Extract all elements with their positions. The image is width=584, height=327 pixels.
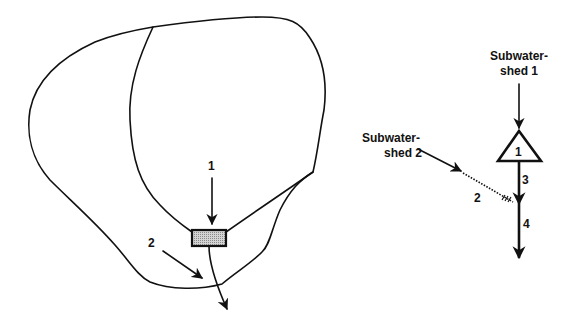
- watershed-map: 1 2: [29, 17, 325, 309]
- reservoir: [192, 230, 226, 246]
- subwatershed-1-label-line2: shed 1: [500, 64, 538, 78]
- watershed-boundary: [29, 17, 325, 288]
- outflow-arrow: [209, 246, 227, 309]
- label-2: 2: [148, 236, 155, 250]
- routing-schematic: Subwater- shed 1 1 3 4 Subwater- shed 2 …: [362, 49, 548, 258]
- subwatershed-divide-right: [226, 172, 313, 232]
- subwatershed-2-inflow: [418, 149, 461, 171]
- label-1: 1: [208, 159, 215, 173]
- arrow-2: [163, 251, 202, 278]
- subwatershed-2-label-line1: Subwater-: [362, 131, 420, 145]
- subwatershed-1-label-line1: Subwater-: [490, 49, 548, 63]
- watershed-diagram: 1 2 Subwater- shed 1 1 3 4 Subwater- she…: [0, 0, 584, 327]
- subwatershed-2-label-line2: shed 2: [384, 146, 422, 160]
- reservoir-node-label: 1: [515, 145, 522, 159]
- subwatershed-divide: [130, 27, 192, 232]
- reach-3-label: 3: [522, 173, 529, 187]
- reach-2-dotted: [463, 173, 513, 202]
- reach-2-label: 2: [474, 191, 481, 205]
- reach-4-label: 4: [523, 217, 530, 231]
